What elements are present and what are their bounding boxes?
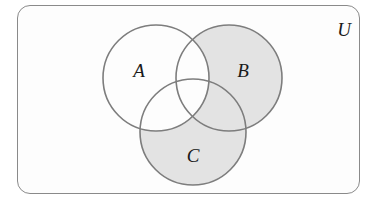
universe-label: U <box>337 20 351 39</box>
set-label-a: A <box>133 61 145 80</box>
venn-diagram <box>0 0 368 210</box>
set-label-c: C <box>187 146 200 165</box>
shaded-region-b-union-c-minus-a <box>140 25 282 185</box>
set-label-b: B <box>237 61 249 80</box>
